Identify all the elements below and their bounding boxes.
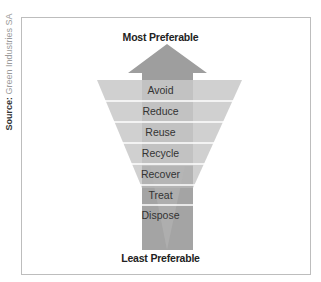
level-avoid: Avoid <box>0 84 321 96</box>
level-recycle: Recycle <box>0 147 321 159</box>
level-reduce: Reduce <box>0 105 321 117</box>
top-label: Most Preferable <box>0 31 321 43</box>
level-reuse: Reuse <box>0 126 321 138</box>
level-recover: Recover <box>0 168 321 180</box>
level-treat: Treat <box>0 189 321 201</box>
bottom-label: Least Preferable <box>0 252 321 264</box>
level-dispose: Dispose <box>0 209 321 221</box>
